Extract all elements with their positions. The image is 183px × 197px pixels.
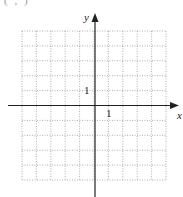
y-axis-arrow-icon	[92, 13, 99, 22]
x-tick-label: 1	[106, 108, 112, 119]
y-tick-label: 1	[84, 85, 90, 96]
y-axis-label: y	[84, 12, 89, 23]
coordinate-plane	[0, 0, 183, 197]
x-axis-arrow-icon	[170, 102, 179, 109]
x-axis-label: x	[177, 110, 182, 121]
x-axis	[8, 102, 179, 109]
